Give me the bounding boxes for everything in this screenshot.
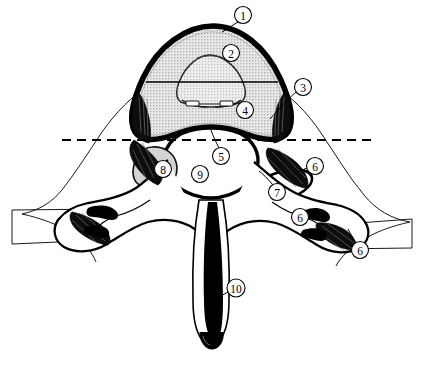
callout-6c[interactable]: 6 [352,242,369,259]
callout-6a[interactable]: 6 [307,158,324,175]
callout-6c-label: 6 [357,245,363,257]
basivertebral-mark-right [220,101,233,106]
callout-9-label: 9 [197,169,203,181]
callout-2-label: 2 [228,48,234,60]
callout-8[interactable]: 8 [155,161,172,178]
callout-10-label: 10 [230,283,242,295]
callout-1-label: 1 [240,10,246,22]
vertebra-diagram-canvas: 1234567896610 [0,0,422,368]
callout-4-label: 4 [242,105,248,117]
callout-3-label: 3 [300,82,306,94]
callout-4[interactable]: 4 [237,102,254,119]
callout-7-label: 7 [274,187,280,199]
vertebra-diagram-figure: 1234567896610 [0,0,422,368]
basivertebral-mark-left [186,101,199,106]
callout-8-label: 8 [160,164,166,176]
callout-9[interactable]: 9 [192,166,209,183]
callout-5-label: 5 [218,151,224,163]
callout-3[interactable]: 3 [295,79,312,96]
callout-7[interactable]: 7 [269,184,286,201]
callout-10[interactable]: 10 [227,279,245,297]
spinous-process-group [193,200,229,349]
callout-1[interactable]: 1 [235,7,252,24]
callout-5[interactable]: 5 [213,148,230,165]
callout-6b-label: 6 [297,212,303,224]
callout-2[interactable]: 2 [223,45,240,62]
callout-6a-label: 6 [312,161,318,173]
callout-6b[interactable]: 6 [292,209,309,226]
